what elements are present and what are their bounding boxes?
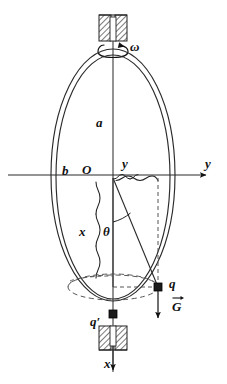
top-bearing-block-icon [99, 15, 127, 41]
label-semi-major-a: a [96, 116, 103, 129]
bead-q-marker-icon [154, 283, 162, 291]
label-gravity-vector: G [172, 300, 181, 313]
bottom-bearing-block-icon [99, 326, 127, 350]
label-angle-theta: θ [103, 225, 110, 238]
label-semi-minor-b: b [62, 164, 69, 177]
label-origin-O: O [82, 163, 91, 176]
physics-diagram: a b O y y x θ q q′ ω x G [0, 0, 227, 384]
label-y-axis: y [205, 157, 211, 170]
label-bead-q-prime: q′ [90, 315, 100, 328]
label-y-coordinate: y [122, 157, 128, 170]
label-angular-velocity: ω [130, 40, 139, 53]
label-x-axis: x [104, 357, 111, 370]
bead-qprime-marker-icon [109, 310, 117, 318]
radius-line [113, 178, 158, 287]
label-x-coordinate: x [79, 225, 86, 238]
diagram-canvas [0, 0, 227, 384]
gravity-symbol: G [172, 299, 181, 314]
vertical-brace-icon [96, 182, 100, 278]
label-bead-q: q [169, 277, 176, 290]
